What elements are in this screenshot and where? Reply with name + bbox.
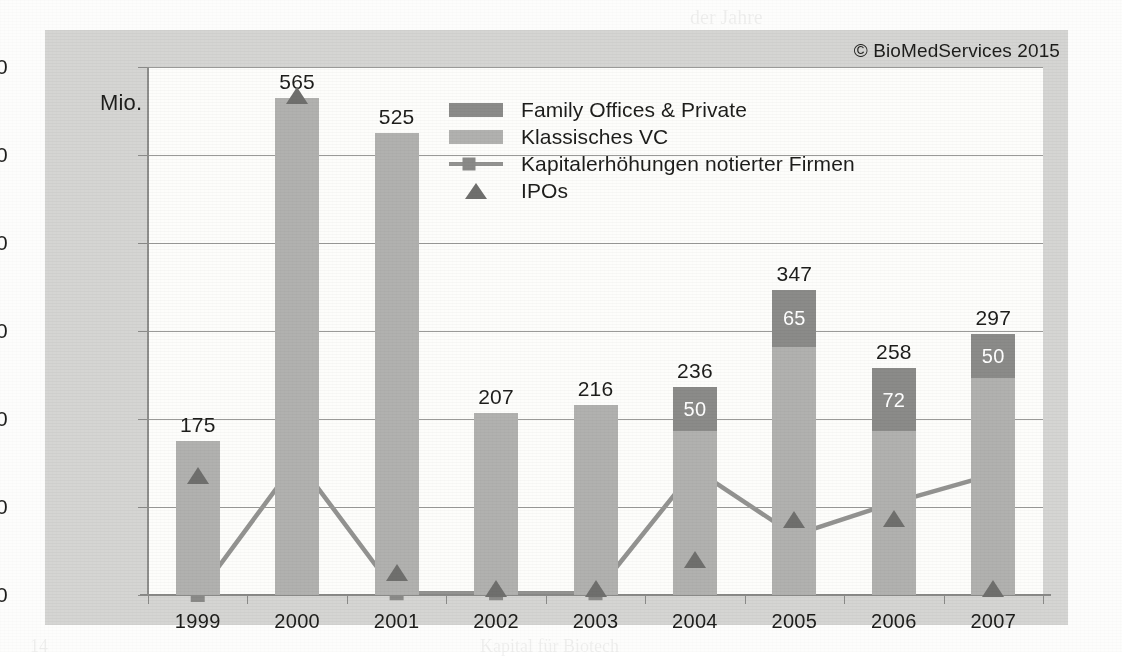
bar-segment-klassisches-vc[interactable] bbox=[772, 347, 816, 595]
bar-group[interactable]: 525 bbox=[375, 133, 419, 595]
bar-segment-family-offices[interactable]: 50 bbox=[971, 334, 1015, 378]
bar-group[interactable]: 216 bbox=[574, 405, 618, 595]
bar-total-label: 347 bbox=[777, 262, 813, 286]
bar-segment-klassisches-vc[interactable] bbox=[474, 413, 518, 595]
bar-total-label: 175 bbox=[180, 413, 216, 437]
legend-label: Klassisches VC bbox=[521, 125, 668, 149]
x-tick-mark bbox=[347, 595, 348, 604]
gridline bbox=[148, 67, 1043, 68]
x-axis-tick-label: 2006 bbox=[871, 610, 917, 633]
swatch-light-icon bbox=[445, 123, 507, 150]
bar-segment-family-offices[interactable]: 72 bbox=[872, 368, 916, 431]
line-square-marker-icon bbox=[445, 150, 507, 177]
bar-segment-klassisches-vc[interactable] bbox=[673, 431, 717, 595]
bar-total-label: 207 bbox=[478, 385, 514, 409]
x-tick-mark bbox=[745, 595, 746, 604]
x-axis-tick-label: 2005 bbox=[772, 610, 818, 633]
bar-segment-value-label: 50 bbox=[971, 344, 1015, 367]
x-tick-mark bbox=[1043, 595, 1044, 604]
bar-segment-value-label: 50 bbox=[673, 398, 717, 421]
x-tick-mark bbox=[944, 595, 945, 604]
ghost-text: der Jahre bbox=[690, 6, 763, 29]
x-axis-tick-label: 2000 bbox=[274, 610, 320, 633]
bar-segment-value-label: 65 bbox=[772, 307, 816, 330]
ghost-text: Kapital für Biotech bbox=[480, 636, 619, 657]
legend-item-family-offices: Family Offices & Private bbox=[445, 96, 855, 123]
bar-segment-klassisches-vc[interactable] bbox=[971, 378, 1015, 595]
y-axis-tick-label: 500 bbox=[0, 143, 8, 167]
legend-item-ipos: IPOs bbox=[445, 177, 855, 204]
x-axis-tick-label: 2003 bbox=[573, 610, 619, 633]
y-axis-tick-label: 0 bbox=[0, 583, 8, 607]
bar-group[interactable]: 72258 bbox=[872, 368, 916, 595]
y-tick-mark bbox=[138, 595, 148, 596]
y-axis-line bbox=[147, 67, 149, 595]
bar-segment-klassisches-vc[interactable] bbox=[275, 98, 319, 595]
bar-total-label: 216 bbox=[578, 377, 614, 401]
x-axis-tick-label: 2004 bbox=[672, 610, 718, 633]
ipo-triangle-marker[interactable] bbox=[783, 511, 805, 528]
y-axis-tick-label: 100 bbox=[0, 495, 8, 519]
bar-group[interactable]: 50297 bbox=[971, 334, 1015, 595]
swatch-dark-icon bbox=[445, 96, 507, 123]
bar-segment-family-offices[interactable]: 65 bbox=[772, 290, 816, 347]
ipo-triangle-marker[interactable] bbox=[684, 551, 706, 568]
bar-segment-value-label: 72 bbox=[872, 388, 916, 411]
bar-total-label: 258 bbox=[876, 340, 912, 364]
x-tick-mark bbox=[645, 595, 646, 604]
ipo-triangle-marker[interactable] bbox=[585, 580, 607, 597]
x-tick-mark bbox=[844, 595, 845, 604]
y-axis-tick-label: 200 bbox=[0, 407, 8, 431]
chart-legend: Family Offices & Private Klassisches VC … bbox=[445, 96, 855, 204]
bar-segment-klassisches-vc[interactable] bbox=[375, 133, 419, 595]
x-tick-mark bbox=[247, 595, 248, 604]
ipo-triangle-marker[interactable] bbox=[883, 510, 905, 527]
bar-total-label: 525 bbox=[379, 105, 415, 129]
bar-segment-klassisches-vc[interactable] bbox=[176, 441, 220, 595]
legend-label: Kapitalerhöhungen notierter Firmen bbox=[521, 152, 855, 176]
copyright-notice: © BioMedServices 2015 bbox=[854, 40, 1060, 62]
x-tick-mark bbox=[148, 595, 149, 604]
bar-group[interactable]: 175 bbox=[176, 441, 220, 595]
bar-group[interactable]: 65347 bbox=[772, 290, 816, 595]
x-axis-tick-label: 2007 bbox=[970, 610, 1016, 633]
bar-segment-klassisches-vc[interactable] bbox=[574, 405, 618, 595]
ipo-triangle-marker[interactable] bbox=[187, 467, 209, 484]
ipo-triangle-marker[interactable] bbox=[386, 564, 408, 581]
ipo-triangle-marker[interactable] bbox=[286, 87, 308, 104]
bar-group[interactable]: 565 bbox=[275, 98, 319, 595]
y-axis-tick-label: 400 bbox=[0, 231, 8, 255]
x-tick-mark bbox=[446, 595, 447, 604]
legend-item-klassisches-vc: Klassisches VC bbox=[445, 123, 855, 150]
x-tick-mark bbox=[546, 595, 547, 604]
x-axis-tick-label: 2001 bbox=[374, 610, 420, 633]
bar-total-label: 236 bbox=[677, 359, 713, 383]
ipo-triangle-marker[interactable] bbox=[982, 580, 1004, 597]
ipo-triangle-marker[interactable] bbox=[485, 580, 507, 597]
y-axis-tick-label: 300 bbox=[0, 319, 8, 343]
legend-label: Family Offices & Private bbox=[521, 98, 747, 122]
x-axis-tick-label: 2002 bbox=[473, 610, 519, 633]
triangle-marker-icon bbox=[445, 177, 507, 204]
legend-item-kapitalerhoehungen: Kapitalerhöhungen notierter Firmen bbox=[445, 150, 855, 177]
bar-group[interactable]: 207 bbox=[474, 413, 518, 595]
x-axis-tick-label: 1999 bbox=[175, 610, 221, 633]
ghost-text: 14 bbox=[30, 636, 48, 657]
legend-label: IPOs bbox=[521, 179, 568, 203]
y-axis-tick-label: 600 bbox=[0, 55, 8, 79]
figure-panel: Mio. € © BioMedServices 2015 01002003004… bbox=[45, 30, 1068, 625]
bar-total-label: 297 bbox=[975, 306, 1011, 330]
bar-segment-family-offices[interactable]: 50 bbox=[673, 387, 717, 431]
